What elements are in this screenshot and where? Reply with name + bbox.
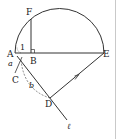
label-ell: ℓ bbox=[67, 122, 71, 131]
label-angle-1: 1 bbox=[20, 43, 25, 52]
label-C: C bbox=[12, 75, 19, 85]
label-B: B bbox=[30, 56, 37, 66]
label-D: D bbox=[45, 99, 52, 109]
segment-AC bbox=[15, 57, 22, 73]
label-A: A bbox=[6, 49, 14, 59]
label-E: E bbox=[103, 49, 110, 59]
right-angle-marker bbox=[31, 50, 35, 54]
label-F: F bbox=[26, 7, 32, 17]
label-b: b bbox=[29, 81, 34, 90]
label-a: a bbox=[8, 59, 13, 68]
line-ell bbox=[17, 56, 67, 120]
geometry-diagram: F A B E C D 1 a b ℓ bbox=[0, 0, 119, 139]
